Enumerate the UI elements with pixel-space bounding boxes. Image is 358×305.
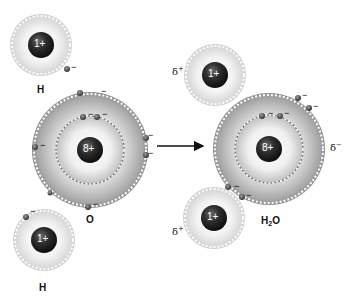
partial-charge-oxygen: δ− [330,141,342,153]
electron-charge-sign: − [40,140,45,150]
electron [85,204,91,210]
electron-charge-sign: − [302,90,307,100]
electron [295,95,301,101]
electron [77,90,83,96]
hydrogen-bottom-symbol: H [39,282,46,293]
electron-charge-sign: − [93,199,98,209]
electron-charge-sign: − [313,101,318,111]
nucleus-charge-label: 1+ [208,68,219,79]
nucleus-charge-label: 1+ [207,211,218,222]
formula-o: O [272,215,280,226]
electron-charge-sign: − [148,130,153,140]
electron-charge-sign: − [30,206,35,216]
electron-charge-sign: − [148,148,153,158]
electron-charge-sign: − [102,109,107,119]
electron-charge-sign: − [246,190,251,200]
nucleus-charge-label: 1+ [37,233,48,244]
hydrogen-top-symbol: H [37,84,44,95]
partial-charge-hydrogen-bottom: δ+ [172,225,184,237]
oxygen-symbol: O [86,214,94,225]
nucleus-charge-label: 1+ [34,38,45,49]
nucleus-charge-label: 8+ [83,143,94,154]
electron [32,144,38,150]
electron [23,214,29,220]
electron [94,114,100,120]
water-formula-label: H2O [261,215,280,227]
electron [80,114,86,120]
electron-charge-sign: − [268,108,273,118]
electron-charge-sign: − [234,181,239,191]
electron [306,105,312,111]
diagram-canvas [0,0,358,305]
electron [225,184,231,190]
electron-charge-sign: − [284,108,289,118]
electron [64,66,70,72]
electron-charge-sign: − [88,109,93,119]
electron [259,113,265,119]
electron [277,113,283,119]
electron-charge-sign: − [101,86,106,96]
partial-charge-hydrogen-top: δ+ [172,65,184,77]
nucleus-charge-label: 8+ [262,142,273,153]
electron-charge-sign: − [71,62,76,72]
electron [48,191,53,196]
electron [239,194,245,200]
